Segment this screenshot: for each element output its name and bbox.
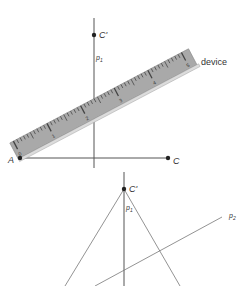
right-diagonal — [124, 189, 180, 286]
point-c-prime-bottom — [122, 187, 126, 191]
bottom-figure: C' p1 p2 — [65, 172, 236, 286]
left-diagonal — [65, 189, 124, 286]
point-c-prime — [92, 33, 96, 37]
geometry-diagram: 012345 A C C' p1 device C' p1 p2 — [0, 0, 246, 286]
label-p1: p1 — [95, 54, 103, 63]
label-c-prime: C' — [99, 30, 107, 40]
label-a: A — [7, 155, 14, 165]
point-c — [166, 156, 170, 160]
line-p2 — [95, 217, 222, 286]
label-p2: p2 — [228, 212, 236, 221]
top-figure: 012345 A C C' p1 device — [7, 18, 227, 168]
label-c: C — [173, 156, 180, 166]
ruler-device: 012345 — [10, 48, 200, 162]
label-c-prime-bottom: C' — [129, 184, 137, 194]
point-a — [18, 156, 22, 160]
label-p1-bottom: p1 — [125, 204, 133, 213]
device-label: device — [201, 57, 227, 67]
